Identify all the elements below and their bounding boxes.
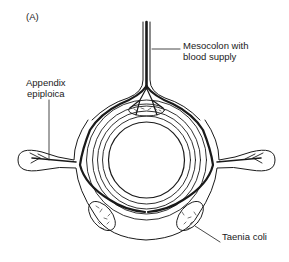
leader-taenia: [195, 226, 220, 242]
colon-cross-section-diagram: [0, 0, 289, 262]
lumen-boundary: [109, 122, 185, 198]
